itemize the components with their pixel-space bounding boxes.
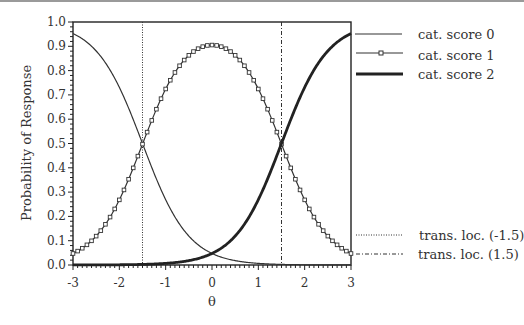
square-marker — [192, 50, 196, 54]
square-marker — [169, 78, 173, 82]
square-marker — [90, 239, 94, 243]
x-tick-label: 0 — [208, 276, 216, 290]
square-marker — [270, 119, 274, 123]
square-marker — [233, 54, 237, 58]
square-marker — [127, 177, 131, 181]
y-tick-label: 0.9 — [47, 39, 66, 53]
square-marker — [266, 107, 270, 111]
square-marker — [104, 223, 108, 227]
x-tick-label: 3 — [347, 276, 355, 290]
square-marker — [206, 44, 210, 48]
square-marker — [94, 234, 98, 238]
square-marker — [243, 64, 247, 68]
square-marker — [118, 198, 122, 202]
square-marker — [187, 54, 191, 58]
x-tick-label: -2 — [113, 276, 125, 290]
square-marker — [108, 215, 112, 219]
square-marker — [85, 243, 89, 247]
square-marker — [141, 142, 145, 146]
y-tick-label: 0.5 — [47, 137, 66, 151]
square-marker — [335, 243, 339, 247]
square-marker — [289, 166, 293, 170]
square-marker — [219, 45, 223, 49]
legend-item-trans-loc-neg: trans. loc. (-1.5) — [356, 228, 524, 243]
x-tick-label: 1 — [255, 276, 263, 290]
square-marker — [71, 252, 75, 256]
x-tick-label: -3 — [67, 276, 79, 290]
square-marker — [80, 246, 84, 250]
y-axis-title: Probability of Response — [19, 65, 34, 221]
x-axis-title: θ — [208, 294, 216, 309]
axis-ticks — [68, 22, 351, 270]
curve-cat-score-0 — [73, 34, 351, 265]
square-marker — [164, 87, 168, 91]
square-marker — [229, 50, 233, 54]
legend-label: cat. score 1 — [418, 48, 495, 63]
square-marker — [298, 188, 302, 192]
y-tick-label: 0.4 — [47, 161, 66, 175]
y-tick-label: 1.0 — [47, 15, 66, 29]
square-marker — [145, 130, 149, 134]
square-marker — [159, 97, 163, 101]
legend-label: cat. score 0 — [418, 27, 495, 42]
y-tick-label: 0.2 — [47, 209, 66, 223]
legend-item-cat-score-0: cat. score 0 — [355, 27, 495, 42]
response-curves — [71, 34, 353, 265]
square-marker — [312, 215, 316, 219]
legend-item-cat-score-2: cat. score 2 — [356, 67, 495, 82]
square-marker — [252, 78, 256, 82]
square-marker — [303, 198, 307, 202]
square-marker — [201, 45, 205, 49]
y-tick-label: 0.3 — [47, 185, 66, 199]
square-marker — [345, 249, 349, 253]
square-marker — [261, 97, 265, 101]
square-marker — [317, 223, 321, 227]
square-marker — [131, 166, 135, 170]
square-marker — [173, 71, 177, 75]
square-marker — [238, 58, 242, 62]
square-marker — [196, 47, 200, 51]
y-tick-label: 0.8 — [47, 64, 66, 78]
legend-item-cat-score-1: cat. score 1 — [356, 48, 495, 63]
square-marker — [136, 154, 140, 158]
square-marker — [284, 154, 288, 158]
square-marker — [224, 47, 228, 51]
x-tick-label: 2 — [301, 276, 309, 290]
plot-border — [73, 22, 351, 265]
square-marker — [182, 58, 186, 62]
y-tick-label: 0.1 — [47, 234, 66, 248]
axis-tick-labels: -3-2-101230.00.10.20.30.40.50.60.70.80.9… — [47, 15, 355, 290]
square-marker-icon — [379, 51, 383, 55]
square-marker — [99, 229, 103, 233]
item-response-chart: -3-2-101230.00.10.20.30.40.50.60.70.80.9… — [0, 0, 524, 325]
y-tick-label: 0.7 — [47, 88, 66, 102]
legend-label: trans. loc. (1.5) — [418, 247, 519, 262]
square-marker — [113, 207, 117, 211]
square-marker — [340, 246, 344, 250]
square-marker — [155, 107, 159, 111]
square-marker — [257, 87, 261, 91]
y-tick-label: 0.6 — [47, 112, 66, 126]
legend-item-trans-loc-pos: trans. loc. (1.5) — [356, 247, 519, 262]
square-marker — [210, 43, 214, 47]
square-marker — [331, 239, 335, 243]
square-marker — [178, 64, 182, 68]
square-marker — [308, 207, 312, 211]
square-marker — [321, 229, 325, 233]
square-marker — [294, 177, 298, 181]
legend-label: cat. score 2 — [418, 67, 495, 82]
legend-label: trans. loc. (-1.5) — [419, 228, 524, 243]
square-marker — [215, 44, 219, 48]
square-marker — [76, 249, 80, 253]
legend: cat. score 0 cat. score 1 cat. score 2 t… — [355, 27, 524, 262]
x-tick-label: -1 — [160, 276, 172, 290]
y-tick-label: 0.0 — [47, 258, 66, 272]
square-marker — [349, 252, 353, 256]
square-marker — [247, 71, 251, 75]
curve-cat-score-2 — [73, 34, 351, 265]
square-marker — [122, 188, 126, 192]
square-marker — [326, 234, 330, 238]
square-marker — [150, 119, 154, 123]
plot-frame — [73, 22, 351, 265]
square-marker — [275, 130, 279, 134]
